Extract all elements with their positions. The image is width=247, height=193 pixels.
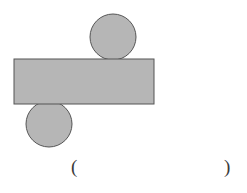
caption: ( ) <box>0 152 247 186</box>
figure-canvas: ( ) <box>0 0 247 193</box>
rectangle-bar-shape <box>14 59 154 104</box>
circle-top-shape <box>90 14 136 60</box>
close-paren: ) <box>224 157 230 176</box>
open-paren: ( <box>71 157 77 176</box>
caption-inner-text <box>80 157 222 177</box>
circle-bottom-shape <box>26 101 72 147</box>
